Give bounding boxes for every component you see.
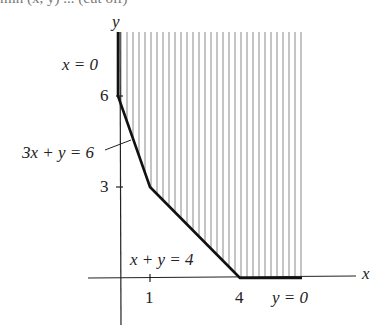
y-axis-label: y (112, 13, 120, 30)
x-axis (88, 276, 356, 278)
constraint-label-y-zero: y = 0 (272, 289, 308, 306)
constraint-label-x-zero: x = 0 (62, 56, 98, 73)
leader-line (105, 140, 131, 150)
region-boundary (118, 32, 302, 278)
cut-off-caption: min (x, y) ... (cut off) (0, 0, 128, 6)
hatched-region (121, 30, 301, 280)
x-axis-label: x (362, 265, 370, 282)
y-tick-label-3: 3 (100, 178, 109, 195)
x-tick-label-1: 1 (145, 289, 154, 306)
feasible-region-diagram (0, 0, 387, 334)
y-tick-label-6: 6 (100, 87, 109, 104)
constraint-label-3x-plus-y: 3x + y = 6 (22, 144, 94, 161)
x-tick-label-4: 4 (235, 289, 244, 306)
constraint-label-x-plus-y: x + y = 4 (130, 251, 194, 268)
